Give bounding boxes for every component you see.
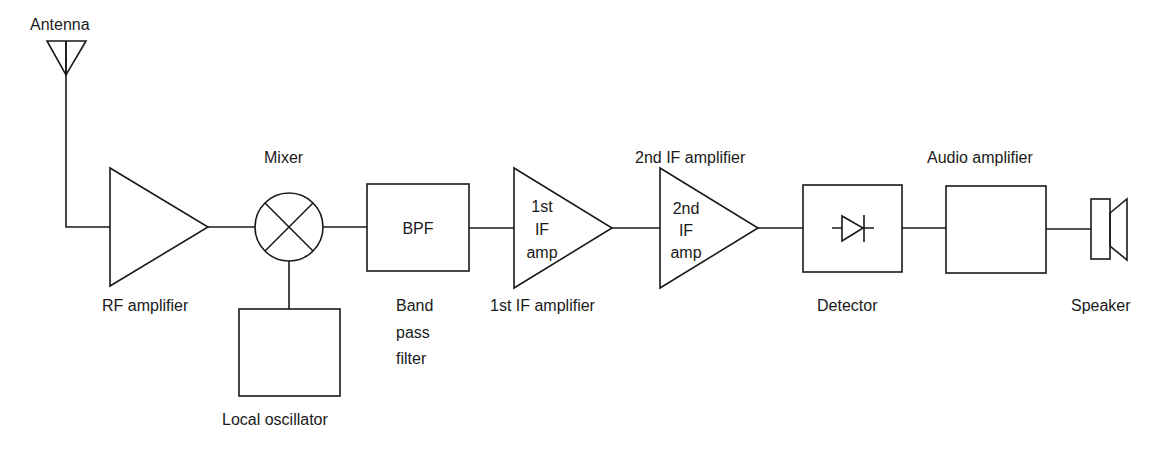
if2-inner-line-1: 2nd — [673, 200, 700, 217]
bpf-inner-label: BPF — [402, 220, 433, 237]
if1-label: 1st IF amplifier — [490, 297, 596, 314]
local-oscillator-box — [239, 309, 340, 396]
local-oscillator-block: Local oscillator — [222, 309, 340, 428]
audio-amplifier-label: Audio amplifier — [927, 149, 1034, 166]
if2-inner-line-3: amp — [670, 244, 701, 261]
antenna-block: Antenna — [30, 16, 90, 75]
if1-inner-line-3: amp — [526, 244, 557, 261]
amplifier-triangle-icon — [514, 168, 612, 288]
if1-inner-line-2: IF — [535, 221, 549, 238]
antenna-icon — [47, 41, 86, 75]
if2-amplifier-block: 2nd IF amplifier 2nd IF amp — [635, 149, 758, 288]
wire-antenna-to-rf — [66, 41, 110, 227]
local-oscillator-label: Local oscillator — [222, 411, 329, 428]
detector-label: Detector — [817, 297, 878, 314]
if1-amplifier-block: 1st IF amp 1st IF amplifier — [490, 168, 612, 314]
detector-block: Detector — [803, 185, 902, 314]
audio-amplifier-block: Audio amplifier — [927, 149, 1046, 273]
bpf-label-line-2: pass — [396, 324, 430, 341]
if2-label: 2nd IF amplifier — [635, 149, 746, 166]
if1-inner-line-1: 1st — [531, 198, 553, 215]
speaker-label: Speaker — [1071, 297, 1131, 314]
audio-amplifier-box — [946, 186, 1046, 273]
receiver-block-diagram: Antenna RF amplifier Mixer Local oscilla… — [0, 0, 1173, 451]
bpf-block: BPF Band pass filter — [367, 184, 469, 367]
speaker-icon — [1091, 199, 1127, 260]
speaker-block: Speaker — [1071, 199, 1131, 314]
mixer-circle-x-icon — [255, 193, 323, 261]
amplifier-triangle-icon — [110, 168, 208, 286]
bpf-label-line-1: Band — [396, 297, 433, 314]
rf-amplifier-label: RF amplifier — [102, 297, 189, 314]
amplifier-triangle-icon — [660, 168, 758, 288]
mixer-label: Mixer — [264, 149, 304, 166]
antenna-label: Antenna — [30, 16, 90, 33]
bpf-label-line-3: filter — [396, 350, 427, 367]
if2-inner-line-2: IF — [679, 222, 693, 239]
mixer-block: Mixer — [255, 149, 323, 261]
signal-wires — [66, 41, 1091, 309]
rf-amplifier-block: RF amplifier — [102, 168, 208, 314]
